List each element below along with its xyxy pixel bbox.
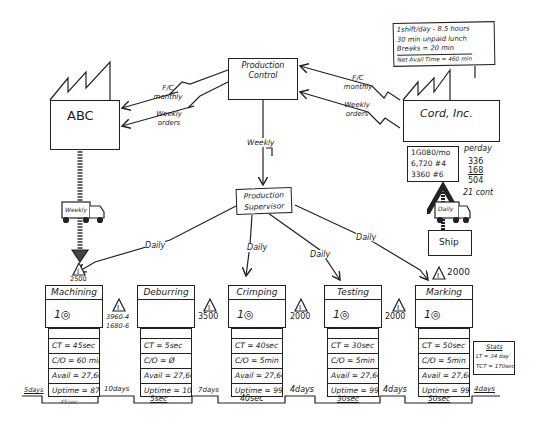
timeline-time-1: 45sec bbox=[60, 398, 78, 405]
process-title: Machining bbox=[46, 286, 102, 300]
operator-count: 1◎ bbox=[237, 308, 254, 321]
demand-line-2: 6,720 #4 bbox=[411, 159, 446, 168]
timeline-days-1: 5days bbox=[24, 386, 43, 394]
timeline-time-3: 40sec bbox=[240, 394, 264, 403]
shipping-label: Ship bbox=[439, 237, 459, 247]
process-title: Marking bbox=[416, 286, 472, 300]
timeline-time-4: 30sec bbox=[337, 394, 359, 403]
cycle-time: CT = 45sec bbox=[49, 339, 99, 354]
inventory-icon: I bbox=[112, 298, 126, 312]
available-time: Avail = 27,600 bbox=[328, 369, 378, 384]
shift-line-2: 30 min unpaid lunch bbox=[397, 35, 467, 44]
stats-total-cycle-time: TCT = 170sec bbox=[476, 363, 514, 369]
inventory-machining-deburring-2: 1680-6 bbox=[106, 322, 129, 330]
cycle-time: CT = 50sec bbox=[419, 339, 469, 354]
shift-note: 1shift/day - 8.5 hours 30 min unpaid lun… bbox=[393, 21, 496, 67]
timeline-time-5: 50sec bbox=[428, 394, 450, 403]
inventory-crimping-testing: 2000 bbox=[290, 312, 310, 321]
cord-truck-label: Daily bbox=[438, 205, 453, 212]
demand-line-3: 3360 #6 bbox=[411, 170, 444, 179]
daily-label-3: Daily bbox=[310, 250, 330, 259]
weekly-label: Weekly bbox=[247, 138, 275, 147]
data-box-deburring: CT = 5sec C/O = Ø Avail = 27,600 Uptime … bbox=[140, 328, 192, 397]
changeover: C/O = 5min bbox=[232, 354, 282, 369]
process-deburring: Deburring bbox=[137, 285, 195, 328]
svg-text:I: I bbox=[117, 304, 119, 312]
daily-label-4: Daily bbox=[356, 233, 376, 242]
operator-count: 1◎ bbox=[54, 308, 71, 321]
inventory-after-marking: 2000 bbox=[447, 267, 470, 277]
customer-name: Cord, Inc. bbox=[420, 107, 473, 120]
svg-text:I: I bbox=[208, 304, 210, 312]
svg-text:I: I bbox=[397, 304, 399, 312]
timeline-days-2: 10days bbox=[104, 385, 129, 393]
stats-lead-time: LT = 34 day bbox=[476, 353, 509, 359]
supervisor-label: Production Supervisor bbox=[239, 189, 290, 213]
timeline-days-5: 4days bbox=[383, 385, 407, 394]
production-control-label: Production Control bbox=[231, 61, 295, 81]
cycle-time: CT = 40sec bbox=[232, 339, 282, 354]
changeover: C/O = 5min bbox=[419, 354, 469, 369]
cycle-time: CT = 30sec bbox=[328, 339, 378, 354]
changeover: C/O = 60 min bbox=[49, 354, 99, 369]
svg-text:I: I bbox=[437, 272, 439, 280]
per-day-total: 504 bbox=[468, 176, 483, 185]
available-time: Avail = 27,600 bbox=[419, 369, 469, 384]
inventory-icon: I bbox=[392, 298, 406, 312]
available-time: Avail = 27,600 bbox=[141, 369, 191, 384]
supplier-abc: ABC bbox=[50, 100, 120, 150]
inventory-icon: I bbox=[294, 298, 308, 312]
timeline-days-6: 4days bbox=[474, 385, 495, 393]
process-machining: Machining 1◎ bbox=[45, 285, 103, 328]
data-box-machining: CT = 45sec C/O = 60 min Avail = 27,600 U… bbox=[48, 328, 100, 397]
data-box-crimping: CT = 40sec C/O = 5min Avail = 27,600 Upt… bbox=[231, 328, 283, 397]
timeline-time-2: 5sec bbox=[150, 394, 167, 403]
daily-label-2: Daily bbox=[247, 243, 267, 252]
per-day-label: perday bbox=[464, 144, 492, 153]
operator-count: 1◎ bbox=[424, 308, 441, 321]
production-supervisor: Production Supervisor bbox=[236, 187, 293, 215]
shift-line-4: Net Avail Time = 460 min bbox=[397, 54, 472, 63]
abc-orders-label: Weekly orders bbox=[150, 110, 188, 128]
demand-line-1: 1G080/mo bbox=[411, 148, 450, 157]
daily-label-1: Daily bbox=[145, 241, 165, 250]
operator-count: 1◎ bbox=[333, 308, 350, 321]
svg-text:I: I bbox=[299, 304, 301, 312]
process-testing: Testing 1◎ bbox=[324, 285, 382, 328]
inventory-icon: I bbox=[203, 298, 217, 312]
process-title: Deburring bbox=[138, 286, 194, 300]
data-box-testing: CT = 30sec C/O = 5min Avail = 27,600 Upt… bbox=[327, 328, 379, 397]
per-day-containers: 21 cont bbox=[463, 188, 493, 197]
inventory-machining-deburring-1: 3960-4 bbox=[106, 313, 129, 321]
available-time: Avail = 27,600 bbox=[232, 369, 282, 384]
data-box-marking: CT = 50sec C/O = 5min Avail = 27,600 Upt… bbox=[418, 328, 470, 397]
process-title: Crimping bbox=[229, 286, 285, 300]
per-day-v1: 336 bbox=[468, 157, 483, 166]
available-time: Avail = 27,600 bbox=[49, 369, 99, 384]
production-control: Production Control bbox=[228, 58, 298, 100]
stats-title: Stats bbox=[486, 343, 503, 351]
inventory-before-machining: 2500 bbox=[70, 275, 87, 283]
process-marking: Marking 1◎ bbox=[415, 285, 473, 328]
shipping-box: Ship bbox=[428, 230, 472, 256]
inventory-testing-marking: 2000 bbox=[385, 312, 405, 321]
customer-demand-box: 1G080/mo 6,720 #4 3360 #6 bbox=[407, 146, 459, 182]
changeover: C/O = Ø bbox=[141, 354, 191, 369]
per-day-v2: 168 bbox=[468, 166, 483, 175]
shift-line-3: Breaks = 20 min bbox=[397, 44, 454, 53]
abc-truck-label: Weekly bbox=[65, 206, 87, 213]
timeline-days-4: 4days bbox=[290, 385, 314, 394]
abc-fc-label: F/C monthly bbox=[148, 84, 188, 102]
inventory-deburring-crimping: 3500 bbox=[198, 312, 218, 321]
supplier-name: ABC bbox=[67, 108, 94, 123]
customer-cord-inc: Cord, Inc. bbox=[403, 100, 500, 142]
cycle-time: CT = 5sec bbox=[141, 339, 191, 354]
inventory-icon: I bbox=[432, 266, 446, 280]
uptime: Uptime = 87% bbox=[49, 384, 99, 398]
changeover: C/O = 5min bbox=[328, 354, 378, 369]
timeline-days-3: 7days bbox=[198, 386, 219, 394]
shift-line-1: 1shift/day - 8.5 hours bbox=[397, 25, 470, 34]
stats-box: Stats LT = 34 day TCT = 170sec bbox=[473, 341, 515, 375]
cord-fc-label: F/C monthly bbox=[340, 74, 376, 92]
cord-orders-label: Weekly orders bbox=[338, 101, 376, 119]
